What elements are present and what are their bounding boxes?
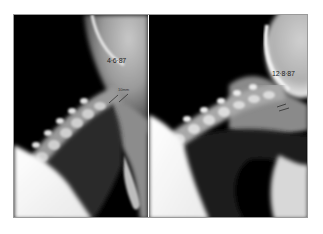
cervical-spine-xray-right xyxy=(149,15,308,217)
date-label-left: 4·6·87 xyxy=(107,57,126,64)
measurement-label: 10mm xyxy=(118,87,129,92)
xray-figure: 4·6·87 10mm xyxy=(13,14,308,218)
date-label-right: 12·8·87 xyxy=(272,70,295,77)
cervical-spine-xray-left xyxy=(14,15,148,217)
xray-panel-left: 4·6·87 10mm xyxy=(14,15,148,217)
xray-panel-right: 12·8·87 xyxy=(149,15,308,217)
